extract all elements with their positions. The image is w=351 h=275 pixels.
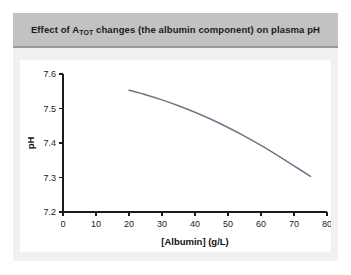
x-tick-label: 50 <box>223 219 233 229</box>
y-tick-label: 7.5 <box>43 104 56 114</box>
chart-ticks <box>59 74 327 216</box>
x-tick-label: 10 <box>91 219 101 229</box>
plot-area: 7.27.37.47.57.601020304050607080 [Albumi… <box>20 60 331 252</box>
y-tick-label: 7.2 <box>43 207 56 217</box>
title-suffix: changes (the albumin component) on plasm… <box>93 24 320 35</box>
data-series-line <box>129 90 311 176</box>
chart-tick-labels: 7.27.37.47.57.601020304050607080 <box>43 69 331 229</box>
y-tick-label: 7.4 <box>43 138 56 148</box>
x-tick-label: 60 <box>256 219 266 229</box>
x-tick-label: 40 <box>190 219 200 229</box>
x-tick-label: 20 <box>124 219 134 229</box>
axis-lines <box>63 74 327 212</box>
x-tick-label: 80 <box>322 219 331 229</box>
chart-axis-titles: [Albumin] (g/L)pH <box>25 137 229 247</box>
figure-container: Effect of ATOT changes (the albumin comp… <box>0 0 351 275</box>
y-tick-label: 7.3 <box>43 173 56 183</box>
figure-title-bar: Effect of ATOT changes (the albumin comp… <box>13 13 338 48</box>
x-tick-label: 30 <box>157 219 167 229</box>
x-tick-label: 0 <box>60 219 65 229</box>
chart-svg: 7.27.37.47.57.601020304050607080 [Albumi… <box>20 60 331 252</box>
x-axis-title: [Albumin] (g/L) <box>161 236 229 247</box>
x-tick-label: 70 <box>289 219 299 229</box>
title-subscript: TOT <box>79 29 93 36</box>
y-axis-title: pH <box>25 137 36 150</box>
title-prefix: Effect of A <box>31 24 79 35</box>
page-title: Effect of ATOT changes (the albumin comp… <box>13 24 338 35</box>
chart-series <box>129 90 311 176</box>
y-tick-label: 7.6 <box>43 69 56 79</box>
chart-axes <box>63 74 327 212</box>
